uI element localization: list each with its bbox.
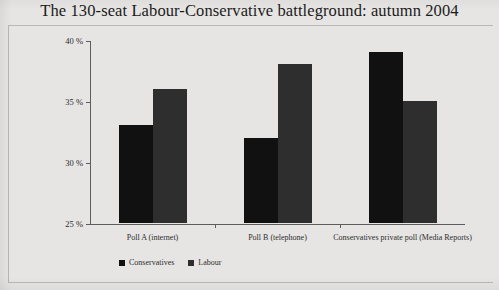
x-axis-category-label: Poll A (internet) (127, 233, 179, 242)
y-axis-tick (86, 163, 90, 164)
legend-label: Conservatives (129, 258, 174, 267)
x-axis-category-label: Poll B (telephone) (248, 233, 307, 242)
legend-swatch-icon (119, 260, 125, 266)
x-axis-tick (215, 224, 216, 228)
legend-swatch-icon (188, 260, 194, 266)
bar-conservatives-2 (244, 138, 278, 223)
legend-item-labour: Labour (188, 258, 221, 267)
bar-labour-3 (403, 101, 437, 223)
legend-label: Labour (198, 258, 221, 267)
chart-legend: ConservativesLabour (119, 258, 221, 267)
x-axis-line (90, 224, 465, 225)
y-axis-line (90, 41, 91, 225)
divider-left (8, 25, 9, 283)
divider-bottom (8, 282, 493, 283)
x-axis-category-label: Conservatives private poll (Media Report… (333, 233, 472, 242)
y-axis-tick (86, 102, 90, 103)
y-axis-tick (86, 41, 90, 42)
y-axis-tick-label: 25 % (65, 219, 83, 229)
y-axis-tick-label: 40 % (65, 36, 83, 46)
page-title: The 130-seat Labour-Conservative battleg… (0, 1, 499, 21)
bar-labour-2 (278, 64, 312, 223)
bar-labour-1 (153, 89, 187, 223)
chart-page: The 130-seat Labour-Conservative battleg… (0, 0, 499, 290)
y-axis-tick-label: 30 % (65, 158, 83, 168)
legend-item-conservatives: Conservatives (119, 258, 174, 267)
bar-conservatives-1 (119, 125, 153, 223)
y-axis-tick (86, 224, 90, 225)
y-axis-tick-label: 35 % (65, 97, 83, 107)
x-axis-tick (340, 224, 341, 228)
divider-top (8, 25, 493, 26)
plot-area: 25 %30 %35 %40 % Poll A (internet)Poll B… (90, 41, 465, 224)
bar-conservatives-3 (369, 52, 403, 223)
